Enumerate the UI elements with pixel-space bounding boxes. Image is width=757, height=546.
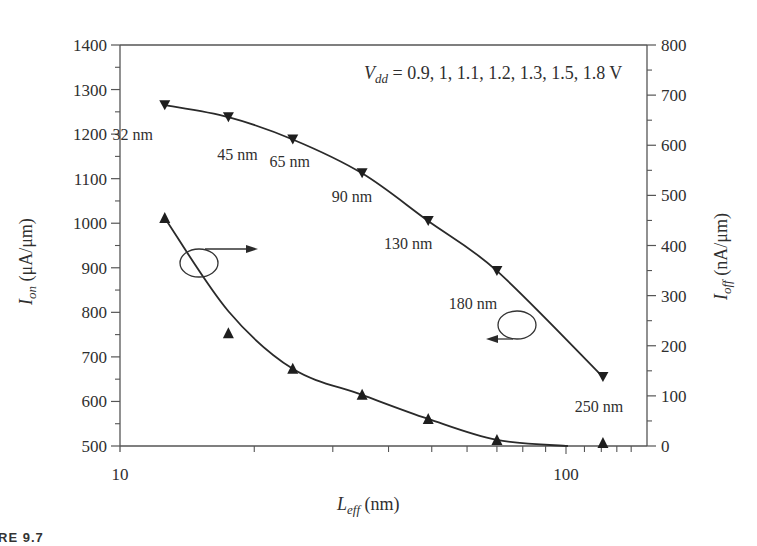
- node-label: 130 nm: [384, 235, 433, 252]
- triangle-up-marker: [287, 363, 298, 374]
- x-axis-title: Leff (nm): [336, 494, 400, 517]
- triangle-down-marker: [597, 372, 608, 382]
- x-tick-label: 10: [112, 465, 129, 484]
- y-right-tick-label: 200: [661, 337, 687, 356]
- triangle-up-marker: [159, 212, 170, 223]
- y-right-tick-label: 300: [661, 287, 687, 306]
- y-left-tick-label: 1300: [73, 81, 107, 100]
- node-label: 45 nm: [217, 146, 258, 163]
- y-right-tick-label: 400: [661, 237, 687, 256]
- triangle-down-marker: [223, 112, 234, 122]
- y-right-tick-label: 800: [661, 36, 687, 55]
- y-right-tick-label: 700: [661, 86, 687, 105]
- chart-canvas: 5006007008009001000110012001300140001002…: [0, 0, 757, 546]
- y-right-tick-label: 0: [661, 437, 670, 456]
- point-labels: 32 nm45 nm65 nm90 nm130 nm180 nm250 nm: [113, 126, 624, 415]
- triangle-down-marker: [357, 168, 368, 178]
- x-tick-label: 100: [553, 465, 579, 484]
- y-left-tick-label: 1000: [73, 214, 107, 233]
- y-left-tick-label: 800: [82, 303, 108, 322]
- y-left-tick-label: 1200: [73, 125, 107, 144]
- y-right-tick-label: 100: [661, 387, 687, 406]
- y-left-tick-label: 500: [82, 437, 108, 456]
- y-left-tick-label: 1400: [73, 36, 107, 55]
- triangle-down-marker: [287, 134, 298, 144]
- y-left-tick-label: 900: [82, 259, 108, 278]
- y-right-tick-label: 600: [661, 136, 687, 155]
- triangle-up-marker: [597, 437, 608, 448]
- y-left-tick-label: 700: [82, 348, 108, 367]
- node-label: 250 nm: [575, 398, 624, 415]
- ion-series-indicator: [486, 311, 536, 343]
- node-label: 180 nm: [449, 295, 498, 312]
- arrow-left-icon: [486, 335, 498, 343]
- node-label: 90 nm: [332, 188, 373, 205]
- y-left-tick-label: 1100: [74, 170, 107, 189]
- y-left-axis-title: Ion (μA/μm): [16, 218, 39, 306]
- vdd-annotation: Vdd = 0.9, 1, 1.1, 1.2, 1.3, 1.5, 1.8 V: [364, 63, 622, 86]
- node-label: 32 nm: [113, 126, 154, 143]
- triangle-up-marker: [223, 327, 234, 338]
- y-left-tick-label: 600: [82, 392, 108, 411]
- arrow-right-icon: [246, 245, 258, 253]
- y-right-tick-label: 500: [661, 186, 687, 205]
- y-right-axis-title: Ioff (nA/μm): [711, 213, 734, 301]
- node-label: 65 nm: [270, 153, 311, 170]
- figure-caption: RE 9.7: [0, 530, 44, 545]
- ioff-curve: [165, 218, 568, 446]
